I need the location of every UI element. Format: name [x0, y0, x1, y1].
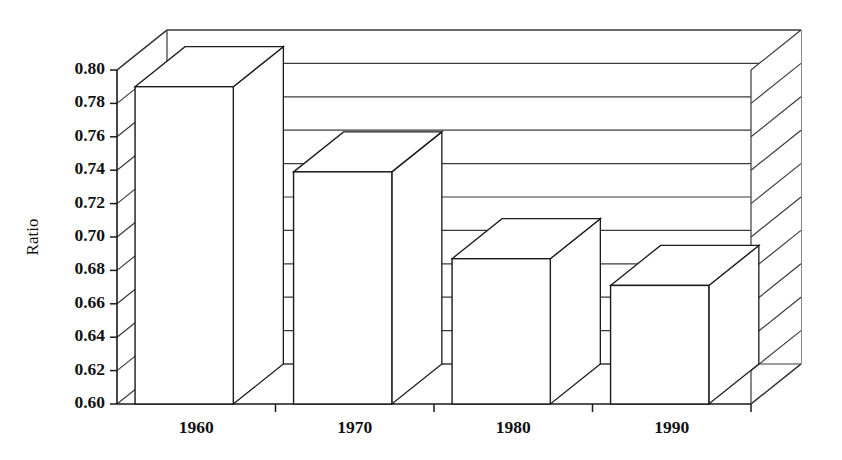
y-axis-tick-label: 0.66 — [74, 292, 105, 312]
bar-column[interactable] — [452, 219, 600, 404]
left-axis-wall-top-edge — [117, 30, 167, 70]
x-axis-tick-label: 1980 — [496, 417, 531, 437]
y-axis-tick-label: 0.78 — [74, 91, 105, 111]
bar-column[interactable] — [135, 47, 283, 404]
x-axis-tick-marks — [276, 404, 752, 412]
y-axis-tick-label: 0.64 — [74, 325, 105, 345]
x-axis-tick-label: 1960 — [179, 417, 214, 437]
x-axis-tick-labels: 1960197019801990 — [179, 417, 690, 437]
y-axis-tick-label: 0.80 — [74, 58, 105, 78]
bar-column[interactable] — [294, 132, 442, 404]
y-axis-tick-labels: 0.800.780.760.740.720.700.680.660.640.62… — [74, 58, 105, 412]
y-axis-tick-label: 0.62 — [74, 359, 105, 379]
y-axis-tick-label: 0.68 — [74, 258, 105, 278]
bar-front-face — [611, 285, 709, 404]
bar-chart-3d: 0.800.780.760.740.720.700.680.660.640.62… — [0, 0, 842, 460]
bar-front-face — [294, 172, 392, 404]
bar-front-face — [452, 259, 550, 404]
bar-column[interactable] — [611, 245, 759, 404]
x-axis-tick-label: 1970 — [337, 417, 372, 437]
x-axis: 1960197019801990 — [179, 404, 751, 437]
y-axis-tick-label: 0.74 — [74, 158, 105, 178]
y-axis-title: Ratio — [23, 219, 42, 256]
chart-container: 0.800.780.760.740.720.700.680.660.640.62… — [0, 0, 842, 460]
bar-side-face — [392, 132, 442, 404]
y-axis-tick-marks — [110, 70, 117, 404]
y-axis-tick-label: 0.72 — [74, 192, 105, 212]
y-axis: 0.800.780.760.740.720.700.680.660.640.62… — [23, 58, 117, 412]
bar-front-face — [135, 87, 233, 404]
y-axis-tick-label: 0.70 — [74, 225, 105, 245]
bar-side-face — [233, 47, 283, 404]
y-axis-tick-label: 0.76 — [74, 125, 105, 145]
x-axis-tick-label: 1990 — [654, 417, 689, 437]
y-axis-tick-label: 0.60 — [74, 392, 105, 412]
